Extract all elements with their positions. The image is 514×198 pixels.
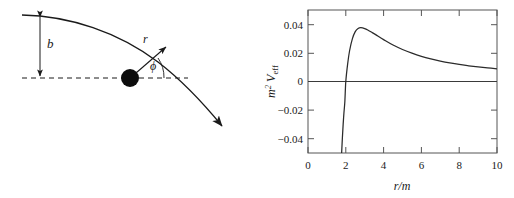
y-tick-label-2: 0 xyxy=(298,75,304,87)
y-axis-title-subscript: eff xyxy=(270,65,280,75)
effective-potential-panel: 0.04 0.02 0 −0.02 −0.04 0 2 4 6 8 10 r/m… xyxy=(262,0,514,198)
svg-text:m2 Veff: m2 Veff xyxy=(263,65,280,98)
mass-point xyxy=(121,69,139,87)
angle-arc xyxy=(158,58,164,78)
x-tick-label-0: 0 xyxy=(305,159,311,171)
angle-label: ϕ xyxy=(150,59,156,73)
x-tick-label-2: 4 xyxy=(381,159,387,171)
scattering-diagram-svg: b r ϕ xyxy=(0,0,262,198)
x-tick-label-4: 8 xyxy=(456,159,462,171)
x-axis-title: r/m xyxy=(394,179,411,193)
effective-potential-curve xyxy=(342,28,497,153)
impact-parameter-label: b xyxy=(47,36,54,51)
x-tick-marks xyxy=(308,147,497,153)
y-tick-label-1: 0.02 xyxy=(284,47,303,59)
y-tick-label-3: −0.02 xyxy=(278,104,303,116)
effective-potential-svg: 0.04 0.02 0 −0.02 −0.04 0 2 4 6 8 10 r/m… xyxy=(262,0,514,198)
y-axis-title: m2 Veff xyxy=(263,65,280,98)
y-tick-label-0: 0.04 xyxy=(284,19,304,31)
y-tick-label-4: −0.04 xyxy=(278,133,304,145)
trajectory-curve xyxy=(22,15,222,126)
radius-label: r xyxy=(143,32,148,46)
figure-container: b r ϕ xyxy=(0,0,514,198)
scattering-diagram-panel: b r ϕ xyxy=(0,0,262,198)
x-tick-label-5: 10 xyxy=(492,159,504,171)
x-tick-label-3: 6 xyxy=(419,159,425,171)
x-tick-label-1: 2 xyxy=(343,159,349,171)
y-axis-title-base: m xyxy=(264,89,278,98)
x-tick-marks-top xyxy=(308,10,497,16)
